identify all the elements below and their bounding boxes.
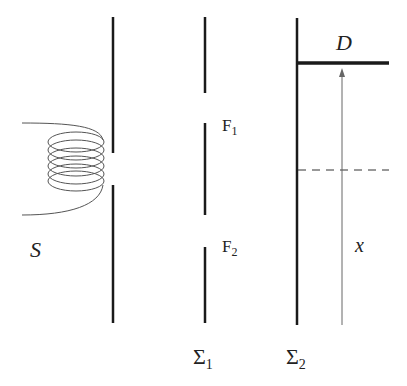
position-arrow bbox=[339, 68, 345, 325]
screen-label: Σ2 bbox=[286, 344, 306, 372]
source-coil bbox=[22, 123, 104, 215]
slit-top-label: F1 bbox=[222, 116, 237, 138]
detector-label: D bbox=[335, 30, 352, 55]
barrier-1-label: Σ1 bbox=[193, 344, 213, 372]
position-label: x bbox=[354, 234, 364, 256]
source-label: S bbox=[30, 237, 41, 262]
slit-bottom-label: F2 bbox=[222, 237, 237, 259]
double-slit-diagram: S F1 F2 Σ1 Σ2 D x bbox=[0, 0, 407, 386]
